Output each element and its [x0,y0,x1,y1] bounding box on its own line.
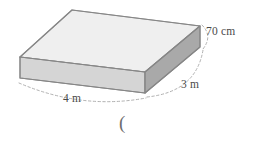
dimension-label-width: 4 m [63,92,81,104]
figure-container: 70 cm 3 m 4 m ( [0,0,255,142]
cuboid-figure [0,0,255,142]
stray-parenthesis-character: ( [119,113,125,132]
dimension-label-depth: 3 m [181,78,199,90]
dimension-label-height: 70 cm [206,25,235,37]
